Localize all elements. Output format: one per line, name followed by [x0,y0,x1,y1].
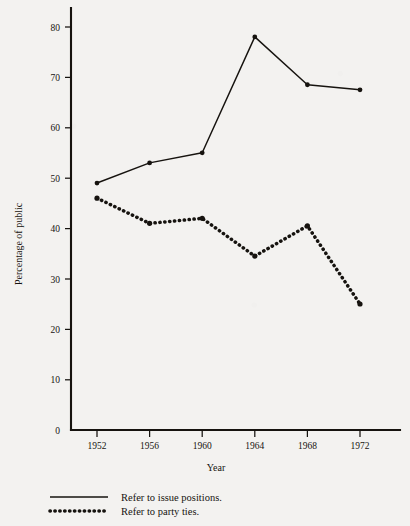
y-tick-80: 80 [51,23,72,33]
x-tick-1968: 1968 [298,430,317,451]
y-tick-40: 40 [51,224,72,234]
x-tick-1960: 1960 [193,430,212,451]
y-tick-60: 60 [51,123,72,133]
y-tick-label: 80 [51,23,61,33]
x-axis-title: Year [207,462,226,473]
legend-label: Refer to party ties. [121,506,199,517]
series-issue-positions-markers [95,34,363,185]
x-tick-label: 1964 [245,441,264,451]
data-point-marker [252,254,257,259]
x-tick-label: 1952 [88,441,107,451]
data-point-marker [95,181,100,186]
y-tick-0: 0 [55,426,60,436]
x-tick-label: 1956 [140,441,159,451]
series-line [97,198,360,304]
data-point-marker [147,160,152,165]
x-tick-1952: 1952 [88,430,107,451]
y-tick-label: 0 [55,426,60,436]
y-tick-label: 60 [51,123,61,133]
data-point-marker [94,196,99,201]
y-tick-50: 50 [51,174,72,184]
data-point-marker [147,221,152,226]
y-tick-label: 20 [51,325,61,335]
data-point-marker [305,82,310,87]
data-point-marker [305,223,310,228]
y-tick-label: 70 [51,73,61,83]
series-party-ties-markers [94,196,362,307]
y-tick-70: 70 [51,73,72,83]
line-chart-figure: Percentage of public 80 70 60 50 [0,0,410,526]
series-line [97,37,360,183]
y-tick-label: 10 [51,375,61,385]
y-tick-20: 20 [51,325,72,335]
legend-label: Refer to issue positions. [121,492,222,503]
y-tick-10: 10 [51,375,72,385]
data-point-marker [357,301,362,306]
x-tick-1956: 1956 [140,430,159,451]
chart-legend: Refer to issue positions. Refer to party… [50,492,222,517]
y-tick-label: 30 [51,275,61,285]
series-issue-positions-line [97,37,360,183]
x-axis-ticks: 1952 1956 1960 1964 1968 1972 [88,430,370,451]
y-tick-30: 30 [51,275,72,285]
y-axis-ticks: 80 70 60 50 40 30 [51,23,72,436]
y-axis-title: Percentage of public [13,202,24,285]
x-tick-label: 1960 [193,441,212,451]
data-point-marker [252,34,257,39]
y-tick-label: 40 [51,224,61,234]
x-tick-label: 1972 [351,441,370,451]
legend-item-party-ties: Refer to party ties. [50,506,199,517]
x-tick-1964: 1964 [245,430,264,451]
data-point-marker [200,216,205,221]
legend-item-issue-positions: Refer to issue positions. [50,492,222,503]
data-point-marker [358,87,363,92]
x-tick-1972: 1972 [351,430,370,451]
x-tick-label: 1968 [298,441,317,451]
series-party-ties-line [97,198,360,304]
data-point-marker [200,150,205,155]
y-tick-label: 50 [51,174,61,184]
chart-page: Percentage of public 80 70 60 50 [0,0,410,526]
